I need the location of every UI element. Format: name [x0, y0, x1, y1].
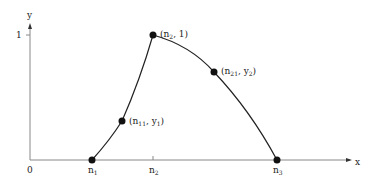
label-n2-1: (n2, 1) [160, 29, 188, 40]
x-tick-label-n1: n1 [88, 165, 98, 176]
svg-text:(n11, y1): (n11, y1) [129, 116, 164, 127]
point-n3 [274, 157, 281, 164]
svg-text:n2: n2 [149, 165, 159, 176]
y-axis-arrow-icon [28, 23, 32, 29]
svg-text:(n21, y2): (n21, y2) [221, 66, 256, 77]
svg-text:n1: n1 [88, 165, 98, 176]
svg-text:(n2, 1): (n2, 1) [160, 29, 188, 40]
x-axis-arrow-icon [346, 158, 352, 162]
label-n21-y2: (n21, y2) [221, 66, 256, 77]
x-axis-label: x [355, 157, 360, 167]
label-n11-y1: (n11, y1) [129, 116, 164, 127]
y-tick-label: 1 [16, 30, 22, 40]
membership-function-diagram: 1 y x 0 n1 n2 n3 (n11, y1) (n2, 1) (n21,… [0, 0, 380, 186]
point-n21-y2 [211, 69, 218, 76]
falling-curve [153, 35, 277, 160]
origin-label: 0 [27, 165, 33, 175]
point-n11-y1 [119, 118, 126, 125]
rising-curve [92, 35, 153, 160]
svg-text:n3: n3 [273, 165, 283, 176]
point-n1 [89, 157, 96, 164]
diagram-svg: 1 y x 0 n1 n2 n3 (n11, y1) (n2, 1) (n21,… [0, 0, 380, 186]
y-axis-label: y [26, 10, 33, 20]
point-n2-1 [150, 32, 157, 39]
x-tick-label-n2: n2 [149, 165, 159, 176]
x-tick-label-n3: n3 [273, 165, 283, 176]
